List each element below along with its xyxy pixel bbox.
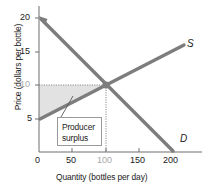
y-tick-label-15: 15 (20, 46, 30, 56)
producer-surplus-chart: Price (dollars per bottle) Quantity (bot… (0, 0, 207, 186)
x-tick-label-100: 100 (97, 155, 112, 165)
x-tick-label-200: 200 (163, 155, 178, 165)
x-axis-title: Quantity (bottles per day) (56, 172, 147, 182)
callout-line-2: surplus (62, 133, 88, 143)
producer-surplus-callout: Producer surplus (57, 117, 102, 146)
y-tick-label-0: 0 (35, 155, 40, 165)
x-tick-label-150: 150 (130, 155, 145, 165)
demand-curve-label: D (180, 133, 187, 144)
callout-line-1: Producer (62, 122, 95, 132)
y-tick-label-20: 20 (20, 12, 30, 22)
supply-curve (40, 45, 184, 119)
y-tick-label-10: 10 (20, 79, 30, 89)
supply-curve-label: S (187, 38, 194, 49)
equilibrium-point-marker (102, 81, 109, 88)
y-tick-label-5: 5 (27, 113, 32, 123)
x-tick-label-50: 50 (66, 155, 76, 165)
